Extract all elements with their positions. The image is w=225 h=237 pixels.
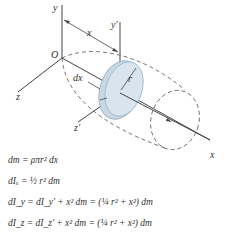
equation-dIz: dI_z = dI_z′ + x² dm = (¼ r² + x²) dm — [8, 213, 153, 234]
r-label: r — [128, 74, 132, 84]
origin-label: O — [51, 50, 58, 60]
x-axis-label: x — [210, 150, 214, 160]
equation-dIy: dI_y = dI_y′ + x² dm = (¼ r² + x²) dm — [8, 192, 153, 213]
x-distance-label: x — [87, 28, 91, 38]
equations-block: dm = ρπr² dx dIₓ = ½ r² dm dI_y = dI_y′ … — [8, 150, 153, 234]
equation-dIx: dIₓ = ½ r² dm — [8, 171, 153, 192]
equation-dm: dm = ρπr² dx — [8, 150, 153, 171]
z-prime-label: z′ — [74, 123, 80, 133]
z-axis — [18, 58, 62, 92]
y-label: y — [53, 3, 57, 13]
dx-label: dx — [73, 73, 82, 83]
y-prime-label: y′ — [111, 20, 118, 30]
z-label: z — [16, 92, 20, 102]
end-ellipse — [144, 85, 206, 150]
